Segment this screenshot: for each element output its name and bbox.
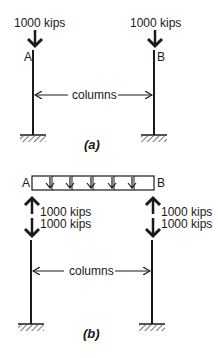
node-label-b: B: [157, 50, 165, 64]
ground-hatch-icon: [141, 136, 167, 142]
load-arrow-down-icon: [108, 177, 116, 188]
distributed-load-arrows: [46, 176, 136, 190]
force-arrow-down-icon: [146, 218, 160, 236]
columns-label-b: columns: [69, 264, 114, 278]
load-arrow-down-icon: [148, 30, 162, 46]
ground-hatch-icon: [18, 325, 44, 331]
node-label-b: B: [157, 176, 165, 190]
force-arrow-up-icon: [146, 198, 160, 214]
load-arrow-down-icon: [46, 177, 54, 188]
load-arrow-down-icon: [128, 177, 136, 188]
caption-a: (a): [84, 137, 100, 152]
load-label-right-a: 1000 kips: [130, 16, 181, 30]
part-b: A B 1000 kips 1000 kips 1000 kips 1000 k…: [18, 176, 212, 341]
load-arrow-down-icon: [87, 177, 95, 188]
structural-diagram: 1000 kips A 1000 kips B columns (a): [0, 0, 218, 358]
ground-hatch-icon: [139, 325, 165, 331]
node-label-a: A: [24, 50, 32, 64]
columns-label-a: columns: [72, 88, 117, 102]
node-label-a: A: [22, 176, 30, 190]
part-a: 1000 kips A 1000 kips B columns (a): [14, 16, 181, 152]
ground-hatch-icon: [20, 136, 46, 142]
caption-b: (b): [83, 326, 100, 341]
force-arrow-down-icon: [25, 218, 39, 236]
load-arrow-down-icon: [66, 177, 74, 188]
force-arrow-up-icon: [25, 198, 39, 214]
force-label-left-down: 1000 kips: [40, 217, 91, 231]
force-label-right-down: 1000 kips: [161, 217, 212, 231]
load-label-left-a: 1000 kips: [14, 16, 65, 30]
load-arrow-down-icon: [28, 30, 42, 46]
